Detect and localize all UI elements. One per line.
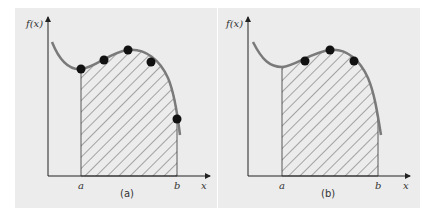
panel-caption: (a) [120,188,134,199]
data-point [326,46,335,55]
lower-limit-label: a [279,180,285,191]
upper-limit-label: b [375,180,381,191]
y-axis-label: f(x) [25,18,43,29]
integration-figure: f(x) x a b (a) f(x) x a b (b) [0,0,435,214]
data-point [124,46,133,55]
data-point [100,56,109,65]
panel-caption: (b) [321,188,335,199]
lower-limit-label: a [78,180,84,191]
upper-limit-label: b [174,180,180,191]
data-point [173,115,182,124]
panel-a: f(x) x a b (a) [25,17,210,199]
data-point [77,65,86,74]
data-point [350,57,359,66]
y-axis-label: f(x) [225,18,243,29]
x-axis-label: x [201,180,207,191]
data-point [147,58,156,67]
panel-b: f(x) x a b (b) [225,17,410,199]
data-point [301,57,310,66]
x-axis-label: x [403,180,409,191]
